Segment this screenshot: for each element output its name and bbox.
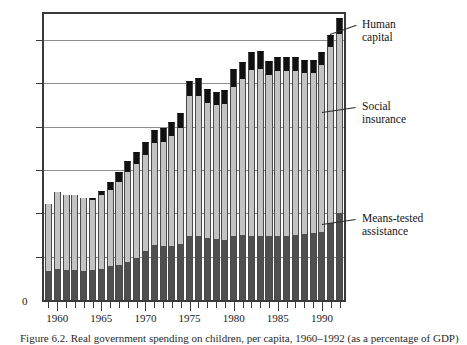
segment-social-insurance-1980 [230,87,237,237]
x-axis-tick-label-1960: 1960 [37,312,77,324]
segment-means-tested-1988 [301,234,308,300]
callout-human-capital-label: Human capital [362,18,396,44]
segment-human-capital-1974 [177,113,184,128]
bar-1991[interactable] [327,35,334,300]
bar-1988[interactable] [301,60,308,300]
segment-means-tested-1983 [257,236,264,300]
segment-social-insurance-1973 [168,136,175,245]
x-axis-tick-label-1975: 1975 [170,312,210,324]
bar-1967[interactable] [115,172,122,300]
segment-human-capital-1972 [160,128,167,142]
bar-1977[interactable] [204,89,211,300]
x-axis-tick-1985 [278,302,279,311]
segment-human-capital-1990 [318,52,325,65]
segment-means-tested-1971 [151,245,158,300]
bar-1965[interactable] [98,191,105,300]
bar-1990[interactable] [318,52,325,300]
x-axis-tick-1975 [190,302,191,311]
bar-1968[interactable] [124,161,131,300]
bar-1976[interactable] [195,78,202,300]
x-axis-tick-1966 [110,302,111,308]
segment-social-insurance-1967 [115,182,122,265]
segment-social-insurance-1985 [274,71,281,236]
segment-human-capital-1968 [124,161,131,172]
bar-1974[interactable] [177,113,184,300]
x-axis-tick-1989 [313,302,314,308]
x-axis-tick-1959 [48,302,49,308]
segment-means-tested-1976 [195,236,202,300]
bar-1964[interactable] [89,198,96,300]
bar-1983[interactable] [257,51,264,300]
segment-human-capital-1985 [274,57,281,71]
segment-social-insurance-1970 [142,155,149,251]
bar-1978[interactable] [213,92,220,300]
bar-1969[interactable] [133,152,140,300]
segment-human-capital-1987 [292,57,299,71]
segment-means-tested-1968 [124,262,131,300]
segment-means-tested-1973 [168,246,175,300]
bar-1985[interactable] [274,57,281,300]
bar-1980[interactable] [230,69,237,300]
x-axis-tick-1988 [304,302,305,308]
bar-1962[interactable] [71,195,78,300]
segment-social-insurance-1991 [327,47,334,224]
bar-1989[interactable] [310,60,317,300]
bar-1981[interactable] [239,62,246,300]
segment-social-insurance-1987 [292,71,299,235]
segment-means-tested-1982 [248,236,255,300]
bar-series-group [44,14,344,300]
x-axis-tick-1991 [331,302,332,308]
bar-1975[interactable] [186,81,193,300]
segment-human-capital-1986 [283,57,290,71]
bar-1959[interactable] [45,204,52,300]
x-axis-tick-1982 [251,302,252,308]
segment-means-tested-1970 [142,251,149,300]
segment-means-tested-1959 [45,271,52,300]
segment-social-insurance-1978 [213,105,220,239]
bar-1970[interactable] [142,142,149,300]
y-axis-zero-label: 0 [22,295,28,307]
x-axis-tick-1969 [137,302,138,308]
bar-1963[interactable] [80,198,87,300]
bar-1972[interactable] [160,128,167,300]
bar-1992[interactable] [336,18,343,300]
segment-means-tested-1969 [133,258,140,300]
bar-1987[interactable] [292,57,299,300]
segment-social-insurance-1989 [310,73,317,233]
bar-1973[interactable] [168,122,175,300]
segment-human-capital-1978 [213,92,220,105]
callout-means-tested-label: Means-tested assistance [362,212,423,238]
x-axis-tick-1974 [181,302,182,308]
figure-root: 2%4%6%8%10%12% 0 19601965197019751980198… [0,0,467,345]
segment-social-insurance-1992 [336,34,343,214]
bar-1961[interactable] [63,195,70,300]
bar-1966[interactable] [107,182,114,300]
segment-human-capital-1984 [265,61,272,75]
x-axis-tick-1961 [66,302,67,308]
bar-1971[interactable] [151,130,158,300]
segment-social-insurance-1979 [221,104,228,241]
bar-1960[interactable] [54,192,61,300]
bar-1984[interactable] [265,61,272,300]
bar-1986[interactable] [283,57,290,300]
x-axis-tick-1963 [84,302,85,308]
segment-social-insurance-1983 [257,69,264,236]
x-axis-tick-1986 [287,302,288,308]
x-axis-tick-1964 [93,302,94,308]
segment-human-capital-1977 [204,89,211,103]
segment-means-tested-1967 [115,265,122,300]
x-axis-tick-1968 [128,302,129,308]
segment-social-insurance-1974 [177,128,184,244]
bar-1979[interactable] [221,90,228,300]
segment-means-tested-1978 [213,239,220,300]
segment-means-tested-1964 [89,270,96,300]
segment-social-insurance-1962 [71,195,78,270]
bar-1982[interactable] [248,52,255,300]
x-axis-tick-1983 [260,302,261,308]
segment-means-tested-1960 [54,269,61,300]
x-axis-tick-1973 [172,302,173,308]
segment-human-capital-1971 [151,130,158,143]
segment-human-capital-1973 [168,122,175,136]
segment-human-capital-1967 [115,172,122,182]
segment-social-insurance-1988 [301,73,308,234]
